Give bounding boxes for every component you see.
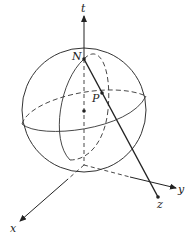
point-p-label: P [91, 92, 100, 105]
x-axis-label: x [10, 222, 17, 235]
sphere-center-point [82, 109, 86, 113]
y-axis-label: y [177, 183, 185, 196]
t-axis-label: t [81, 2, 86, 15]
x-axis [20, 179, 68, 221]
meridian-front [59, 59, 84, 160]
north-pole-point [82, 57, 86, 61]
point-p [100, 91, 104, 95]
stereographic-projection-diagram: t N P y z x [0, 0, 196, 240]
projection-line [84, 59, 158, 197]
meridian-back-lower [70, 110, 108, 160]
projected-point-label: z [156, 198, 163, 211]
y-axis-dashed [84, 165, 130, 177]
north-pole-label: N [71, 50, 82, 63]
